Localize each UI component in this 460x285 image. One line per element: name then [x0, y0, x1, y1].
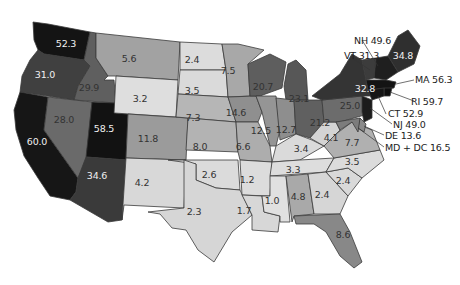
callout-ma: MA 56.3	[415, 74, 452, 85]
label-sc: 2.4	[336, 175, 351, 186]
label-il: 12.5	[251, 125, 271, 136]
label-oh: 21.2	[310, 117, 330, 128]
label-nv: 28.0	[54, 114, 74, 125]
label-wa: 52.3	[56, 38, 76, 49]
label-co: 11.8	[138, 133, 158, 144]
label-nc: 3.5	[345, 156, 360, 167]
label-ne: 7.3	[186, 112, 201, 123]
label-ut: 58.5	[94, 123, 114, 134]
label-ms: 1.0	[265, 195, 280, 206]
label-wv: 4.1	[324, 132, 339, 143]
label-ks: 8.0	[193, 141, 208, 152]
callout-md: MD + DC 16.5	[385, 142, 450, 153]
callout-ct: CT 52.9	[388, 108, 423, 119]
label-mo: 6.6	[236, 141, 251, 152]
label-va: 7.7	[345, 137, 360, 148]
label-tn: 3.3	[286, 164, 301, 175]
label-nd: 2.4	[185, 54, 200, 65]
label-or: 31.0	[35, 69, 55, 80]
label-tx: 2.3	[187, 206, 202, 217]
label-mn: 7.5	[221, 65, 236, 76]
label-me: 34.8	[393, 50, 413, 61]
label-wi: 20.7	[253, 81, 273, 92]
label-ar: 1.2	[240, 174, 255, 185]
label-az: 34.6	[87, 170, 107, 181]
label-nm: 4.2	[135, 177, 150, 188]
callout-nj: NJ 49.0	[393, 119, 426, 130]
callout-vt: VT 31.3	[344, 50, 379, 61]
label-mt: 5.6	[122, 53, 137, 64]
state-mt	[96, 33, 180, 80]
label-mi: 23.1	[289, 93, 309, 104]
label-sd: 3.5	[185, 85, 200, 96]
label-fl: 8.6	[336, 229, 351, 240]
label-ia: 14.6	[226, 107, 246, 118]
state-fl	[294, 214, 362, 268]
state-nj	[362, 96, 372, 122]
label-ny: 32.8	[355, 83, 375, 94]
label-wy: 3.2	[133, 93, 148, 104]
callout-nh: NH 49.6	[354, 35, 391, 46]
callout-ri: RI 59.7	[411, 96, 443, 107]
label-in: 12.7	[276, 124, 296, 135]
callout-de: DE 13.6	[385, 130, 421, 141]
label-pa: 25.0	[340, 100, 360, 111]
label-ky: 3.4	[294, 143, 309, 154]
label-id: 29.9	[79, 82, 99, 93]
label-la: 1.7	[237, 205, 252, 216]
label-ca: 60.0	[27, 136, 47, 147]
label-ok: 2.6	[202, 169, 217, 180]
label-ga: 2.4	[315, 189, 330, 200]
label-al: 4.8	[291, 191, 306, 202]
